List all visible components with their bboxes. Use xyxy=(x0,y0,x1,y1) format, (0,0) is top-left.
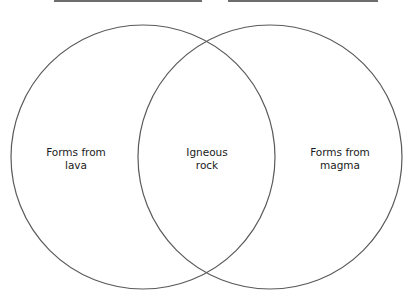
center-label-line2: rock xyxy=(186,159,227,172)
left-label-line2: lava xyxy=(46,159,106,172)
right-region-label: Forms from magma xyxy=(310,146,370,172)
center-region-label: Igneous rock xyxy=(186,146,227,172)
left-region-label: Forms from lava xyxy=(46,146,106,172)
right-label-line2: magma xyxy=(310,159,370,172)
center-label-line1: Igneous xyxy=(186,146,227,159)
left-label-line1: Forms from xyxy=(46,146,106,159)
right-label-line1: Forms from xyxy=(310,146,370,159)
